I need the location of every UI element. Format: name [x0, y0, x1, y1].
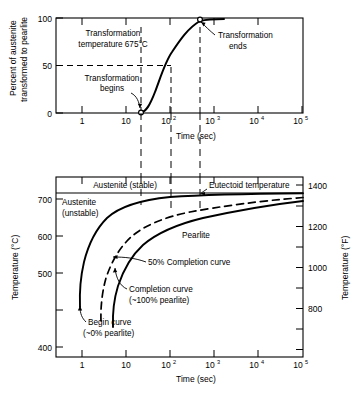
transformation-curve-plateau [200, 19, 224, 21]
bottom-xtick-1e5: 10 [293, 360, 303, 370]
bottom-xtick-1e4-exp: 4 [261, 359, 264, 365]
bottom-xtick-1e4: 10 [249, 360, 259, 370]
bottom-xtick-1e3-exp: 3 [217, 359, 220, 365]
end-marker [198, 17, 203, 22]
top-xtick-1e3-exp: 3 [217, 115, 220, 121]
bottom-ytick-1400f: 1400 [308, 181, 327, 191]
bottom-xlabel: Time (sec) [176, 374, 216, 384]
region-austenite-unstable-line2: (unstable) [62, 209, 99, 218]
annot-completion-line1: Completion curve [129, 285, 193, 294]
annot-begin-line2: (~0% pearlite) [83, 329, 134, 338]
top-xtick-1: 1 [80, 116, 85, 126]
top-y-axis-title: Percent of austenite transformed to pear… [8, 17, 29, 102]
top-ytick-50: 50 [43, 61, 53, 71]
top-xtick-10: 10 [121, 116, 131, 126]
region-pearlite: Pearlite [182, 231, 210, 240]
bottom-xtick-1e3: 10 [205, 360, 215, 370]
bottom-ytick-800f: 800 [308, 304, 322, 314]
leader-begins-arrow [138, 104, 142, 108]
region-austenite-stable: Austenite (stable) [93, 181, 157, 190]
bottom-x-axis: 1 10 10 2 10 3 10 4 10 5 Time (sec) [80, 177, 308, 384]
bottom-ytick-600: 600 [38, 232, 52, 242]
annot-begins-line2: begins [100, 84, 124, 93]
bottom-xtick-1e2-exp: 2 [173, 359, 176, 365]
bottom-xtick-1e2: 10 [161, 360, 171, 370]
top-xtick-1e5-exp: 5 [305, 115, 308, 121]
region-austenite-unstable-line1: Austenite [62, 198, 97, 207]
top-ytick-100: 100 [38, 14, 52, 24]
annot-eutectoid-text: Eutectoid temperature [209, 181, 290, 190]
top-xtick-1e2: 10 [161, 116, 171, 126]
top-ylabel-line2: transformed to pearlite [19, 17, 29, 102]
annot-fifty-text: 50% Completion curve [148, 258, 231, 267]
annotation-begin-curve: Begin curve (~0% pearlite) [78, 306, 135, 338]
annotation-transformation-begins: Transformation begins [85, 74, 143, 108]
bottom-ytick-1200f: 1200 [308, 222, 327, 232]
isothermal-transformation-figure: 100 50 0 Percent of austenite transforme… [0, 0, 357, 403]
top-ylabel-line1: Percent of austenite [8, 20, 18, 96]
annot-temp-line2: temperature 675°C [78, 40, 147, 49]
annot-completion-line2: (~100% pearlite) [129, 296, 190, 305]
annotation-transformation-temperature: Transformation temperature 675°C [78, 29, 147, 49]
top-chart: 100 50 0 Percent of austenite transforme… [8, 14, 308, 142]
bottom-y-axis-fahrenheit: 1400 1200 1000 800 Temperature (°F) [296, 181, 350, 350]
annot-temp-line1: Transformation [86, 29, 141, 38]
bottom-ytick-400: 400 [38, 343, 52, 353]
leader-begins [131, 93, 140, 108]
bottom-xtick-10: 10 [121, 360, 131, 370]
leader-completion-arrow [113, 268, 117, 272]
figure-svg: 100 50 0 Percent of austenite transforme… [0, 0, 357, 403]
leader-begin-arrow [78, 306, 82, 310]
top-xlabel: Time (sec) [176, 131, 216, 141]
bottom-ytick-1000f: 1000 [308, 263, 327, 273]
bottom-ylabel-fahrenheit: Temperature (°F) [340, 235, 350, 300]
bottom-ylabel-celsius: Temperature (°C) [10, 235, 20, 300]
bottom-ytick-700: 700 [38, 195, 52, 205]
bottom-xtick-1e5-exp: 5 [305, 359, 308, 365]
annotation-transformation-ends: Transformation ends [201, 22, 273, 51]
top-xtick-1e3: 10 [205, 116, 215, 126]
annotation-completion-curve: Completion curve (~100% pearlite) [113, 268, 193, 305]
annot-ends-line1: Transformation [218, 31, 273, 40]
bottom-y-axis-celsius: 700 600 500 400 Temperature (°C) [10, 195, 63, 353]
bottom-xtick-1: 1 [80, 360, 85, 370]
top-ytick-0: 0 [47, 109, 52, 119]
top-xtick-1e4: 10 [249, 116, 259, 126]
top-xtick-1e5: 10 [293, 116, 303, 126]
annot-ends-line2: ends [229, 42, 247, 51]
bottom-ytick-500: 500 [38, 269, 52, 279]
top-xtick-1e2-exp: 2 [173, 115, 176, 121]
annot-begin-line1: Begin curve [88, 318, 132, 327]
annot-begins-line1: Transformation [85, 74, 140, 83]
bottom-chart: 700 600 500 400 Temperature (°C) 1400 12… [10, 177, 350, 384]
top-xtick-1e4-exp: 4 [261, 115, 264, 121]
